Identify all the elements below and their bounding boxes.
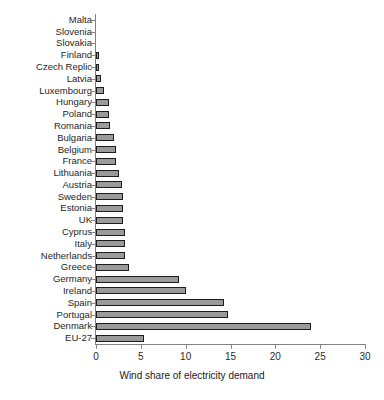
y-axis-tick: [91, 326, 95, 327]
bar: [96, 229, 125, 236]
category-label: EU-27: [65, 333, 92, 343]
bar: [96, 111, 109, 118]
x-axis-tick: [141, 345, 142, 349]
category-label: France: [62, 156, 92, 166]
x-axis-tick: [186, 345, 187, 349]
y-axis-tick: [91, 173, 95, 174]
x-axis-tick-label: 30: [350, 350, 380, 363]
category-label: Italy: [75, 239, 92, 249]
bar: [96, 205, 123, 212]
bar: [96, 264, 129, 271]
bar: [96, 99, 109, 106]
category-label: Belgium: [58, 145, 92, 155]
category-label: Greece: [61, 262, 92, 272]
category-label: Spain: [68, 298, 92, 308]
x-axis-tick: [96, 345, 97, 349]
y-axis-tick: [91, 67, 95, 68]
y-axis-tick: [91, 138, 95, 139]
y-axis-tick: [91, 267, 95, 268]
y-axis-tick: [91, 315, 95, 316]
category-label: Denmark: [53, 321, 92, 331]
y-axis-tick: [91, 32, 95, 33]
bar: [96, 252, 125, 259]
y-axis-tick: [91, 338, 95, 339]
y-axis-tick: [91, 256, 95, 257]
y-axis-tick: [91, 185, 95, 186]
bar: [96, 335, 144, 342]
x-axis-tick: [231, 345, 232, 349]
x-axis-tick-label: 20: [260, 350, 290, 363]
y-axis-tick: [91, 197, 95, 198]
category-label: Bulgaria: [57, 133, 92, 143]
bar: [96, 323, 311, 330]
category-label: Cyprus: [62, 227, 92, 237]
bar: [96, 276, 179, 283]
bar: [96, 158, 116, 165]
y-axis-tick: [91, 91, 95, 92]
x-axis-tick: [275, 345, 276, 349]
y-axis-tick: [91, 20, 95, 21]
x-axis-tick-label: 10: [171, 350, 201, 363]
bar: [96, 181, 122, 188]
bar: [96, 75, 101, 82]
category-label: Germany: [53, 274, 92, 284]
category-label: Hungary: [56, 97, 92, 107]
category-label: Poland: [62, 109, 92, 119]
category-label: Slovakia: [56, 38, 92, 48]
bar: [96, 134, 114, 141]
category-label: Sweden: [58, 192, 92, 202]
x-axis-tick-label: 0: [81, 350, 111, 363]
bar: [96, 87, 104, 94]
category-label: Latvia: [67, 74, 92, 84]
bar: [96, 122, 110, 129]
category-label: Austria: [62, 180, 92, 190]
category-label: Czech Replic: [36, 62, 92, 72]
category-label: Netherlands: [41, 251, 92, 261]
x-axis-tick-label: 15: [216, 350, 246, 363]
y-axis-tick: [91, 279, 95, 280]
y-axis-tick: [91, 208, 95, 209]
bar: [96, 240, 125, 247]
x-axis-tick-label: 25: [305, 350, 335, 363]
x-axis-tick-label: 5: [126, 350, 156, 363]
y-axis-tick: [91, 79, 95, 80]
plot-area: [96, 14, 365, 344]
x-axis-tick: [365, 345, 366, 349]
y-axis-tick: [91, 102, 95, 103]
bar: [96, 311, 228, 318]
bar: [96, 287, 186, 294]
y-axis-tick: [91, 244, 95, 245]
category-label: Lithuania: [53, 168, 92, 178]
category-label: Ireland: [63, 286, 92, 296]
y-axis-tick: [91, 43, 95, 44]
category-label: Malta: [69, 15, 92, 25]
category-label: Luxembourg: [39, 86, 92, 96]
y-axis-tick: [91, 150, 95, 151]
bar: [96, 193, 123, 200]
category-label: Portugal: [57, 310, 92, 320]
bar: [96, 170, 119, 177]
y-axis-tick: [91, 220, 95, 221]
y-axis-tick: [91, 291, 95, 292]
category-label: Finland: [61, 50, 92, 60]
bar: [96, 146, 116, 153]
y-axis-tick: [91, 161, 95, 162]
y-axis-tick: [91, 126, 95, 127]
x-axis-tick: [320, 345, 321, 349]
y-axis-tick: [91, 114, 95, 115]
category-label: Romania: [54, 121, 92, 131]
category-label: Slovenia: [56, 27, 92, 37]
bar: [96, 299, 224, 306]
bar: [96, 52, 99, 59]
bar: [96, 64, 99, 71]
y-axis-tick: [91, 232, 95, 233]
category-label: Estonia: [60, 203, 92, 213]
bar: [96, 217, 123, 224]
x-axis-title: Wind share of electricity demand: [0, 370, 384, 381]
y-axis-tick: [91, 303, 95, 304]
y-axis-tick: [91, 55, 95, 56]
wind-share-bar-chart: MaltaSloveniaSlovakiaFinlandCzech Replic…: [0, 0, 384, 400]
